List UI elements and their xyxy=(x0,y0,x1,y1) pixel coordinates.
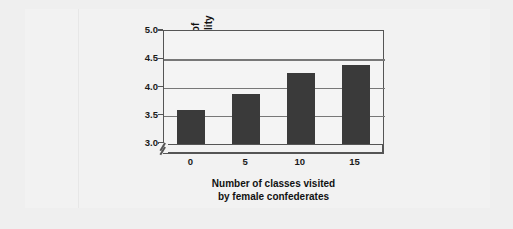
x-tick-label-10: 10 xyxy=(280,156,320,167)
x-axis-title-line-1: Number of classes visited xyxy=(212,178,335,189)
bar-5 xyxy=(232,94,260,144)
bar-15 xyxy=(342,65,370,144)
bar-10 xyxy=(287,73,315,144)
y-axis-tick-labels: 5.0 4.5 4.0 3.5 3.0 xyxy=(132,0,158,229)
x-axis-title-line-2: by female confederates xyxy=(218,191,329,202)
x-axis-title: Number of classes visited by female conf… xyxy=(163,177,384,203)
y-tick-label-4-5: 4.5 xyxy=(134,53,158,63)
scan-seam xyxy=(78,9,79,208)
bar-0 xyxy=(177,110,205,144)
x-tick-label-5: 5 xyxy=(225,156,265,167)
plot-area xyxy=(163,30,384,145)
x-axis-line xyxy=(163,152,384,154)
gridline-4-5 xyxy=(164,59,385,60)
y-tick-label-3-5: 3.5 xyxy=(134,110,158,120)
y-tick-label-4-0: 4.0 xyxy=(134,82,158,92)
y-tick-label-5-0: 5.0 xyxy=(134,25,158,35)
x-tick-label-0: 0 xyxy=(170,156,210,167)
figure: Rating of attractiveness of visitor's pe… xyxy=(0,0,513,229)
y-tick-label-3-0: 3.0 xyxy=(134,138,158,148)
x-tick-label-15: 15 xyxy=(335,156,375,167)
axis-break-icon xyxy=(156,140,172,156)
